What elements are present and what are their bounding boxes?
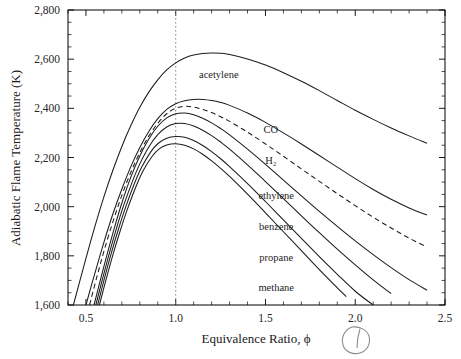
plot-frame [68,10,445,305]
y-tick-label: 2,800 [34,4,60,17]
x-axis-title: Equivalence Ratio, ϕ [201,331,310,346]
chart-container: acetyleneCOH₂ethylenebenzenepropanemetha… [0,0,461,359]
curve-acetylene [73,53,427,305]
x-tick-label: 2.5 [438,312,453,324]
curve-label-co: CO [264,124,279,135]
curve-co [86,99,427,305]
y-tick-label: 1,600 [34,299,60,312]
y-tick-label: 2,400 [34,102,60,115]
curve-label-benzene: benzene [259,221,294,232]
y-axis-ticks [68,10,445,305]
curve-label-propane: propane [259,252,293,263]
y-tick-label: 2,200 [34,152,60,165]
curve-label-ethylene: ethylene [258,190,294,201]
curve-labels-group: acetyleneCOH₂ethylenebenzenepropanemetha… [199,69,294,294]
x-tick-label: 0.5 [79,312,94,324]
y-tick-label: 2,000 [34,201,60,214]
x-tick-label: 1.5 [258,312,273,324]
x-tick-label: 2.0 [348,312,363,324]
curve-ethylene [94,113,427,305]
y-tick-label: 1,800 [34,250,60,263]
curve-label-acetylene: acetylene [199,69,239,80]
x-axis-ticks [68,10,445,305]
handwritten-circle-mark [342,327,369,354]
y-tick-labels: 1,6001,8002,0002,2002,4002,6002,800 [34,4,60,312]
curve-methane [99,144,346,305]
curve-propane [98,137,374,305]
curve-benzene [96,123,391,305]
curves-group [73,53,427,305]
axes-frame [68,10,445,305]
x-tick-labels: 0.51.01.52.02.5 [79,312,453,324]
y-axis-title: Adiabatic Flame Temperature (K) [8,70,23,246]
curve-label-h2: H₂ [265,155,277,166]
adiabatic-flame-temperature-chart: acetyleneCOH₂ethylenebenzenepropanemetha… [0,0,461,359]
curve-label-methane: methane [258,282,294,293]
x-tick-label: 1.0 [169,312,184,324]
y-tick-label: 2,600 [34,53,60,66]
